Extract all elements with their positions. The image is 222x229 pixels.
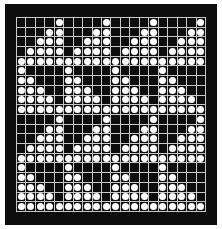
circle-icon bbox=[112, 203, 119, 210]
grid-cell bbox=[121, 163, 130, 173]
grid-cell bbox=[36, 134, 45, 144]
circle-icon bbox=[27, 174, 34, 181]
grid-cell bbox=[64, 144, 73, 154]
grid-cell bbox=[168, 47, 177, 57]
grid-cell bbox=[140, 28, 149, 38]
grid-cell bbox=[93, 86, 102, 96]
grid-cell bbox=[187, 96, 196, 106]
grid-cell bbox=[93, 163, 102, 173]
grid-cell bbox=[111, 96, 120, 106]
grid-cell bbox=[149, 144, 158, 154]
grid-cell bbox=[17, 163, 26, 173]
circle-icon bbox=[46, 38, 53, 45]
grid-cell bbox=[83, 37, 92, 47]
circle-icon bbox=[27, 155, 34, 162]
grid-cell bbox=[93, 76, 102, 86]
circle-icon bbox=[178, 193, 185, 200]
grid-cell bbox=[102, 28, 111, 38]
circle-icon bbox=[197, 203, 204, 210]
grid-cell bbox=[159, 105, 168, 115]
circle-icon bbox=[188, 145, 195, 152]
circle-icon bbox=[197, 145, 204, 152]
grid-cell bbox=[178, 193, 187, 203]
grid-cell bbox=[197, 144, 206, 154]
circle-icon bbox=[112, 106, 119, 113]
grid-cell bbox=[45, 57, 54, 67]
circle-icon bbox=[122, 58, 129, 65]
grid-cell bbox=[36, 202, 45, 212]
grid-cell bbox=[149, 57, 158, 67]
circle-icon bbox=[84, 58, 91, 65]
grid-cell bbox=[64, 154, 73, 164]
grid-cell bbox=[55, 193, 64, 203]
grid-cell bbox=[83, 183, 92, 193]
grid-cell bbox=[83, 76, 92, 86]
grid-cell bbox=[93, 134, 102, 144]
grid-cell bbox=[121, 28, 130, 38]
circle-icon bbox=[56, 19, 63, 26]
grid-cell bbox=[111, 193, 120, 203]
circle-icon bbox=[46, 58, 53, 65]
grid-cell bbox=[36, 173, 45, 183]
grid-cell bbox=[111, 134, 120, 144]
grid-cell bbox=[36, 57, 45, 67]
grid-cell bbox=[83, 134, 92, 144]
circle-icon bbox=[46, 135, 53, 142]
circle-icon bbox=[84, 155, 91, 162]
grid-cell bbox=[178, 115, 187, 125]
grid-cell bbox=[55, 76, 64, 86]
circle-icon bbox=[103, 135, 110, 142]
grid-cell bbox=[187, 105, 196, 115]
grid-cell bbox=[83, 105, 92, 115]
circle-icon bbox=[122, 184, 129, 191]
grid-cell bbox=[187, 134, 196, 144]
grid-cell bbox=[178, 66, 187, 76]
circle-icon bbox=[46, 48, 53, 55]
circle-icon bbox=[93, 145, 100, 152]
grid-cell bbox=[121, 173, 130, 183]
grid-cell bbox=[159, 144, 168, 154]
circle-icon bbox=[46, 96, 53, 103]
grid-cell bbox=[197, 105, 206, 115]
grid-cell bbox=[26, 134, 35, 144]
circle-icon bbox=[46, 193, 53, 200]
circle-icon bbox=[18, 193, 25, 200]
grid-cell bbox=[45, 105, 54, 115]
circle-icon bbox=[112, 174, 119, 181]
circle-icon bbox=[112, 164, 119, 171]
grid-cell bbox=[197, 125, 206, 135]
grid-cell bbox=[178, 154, 187, 164]
grid-cell bbox=[130, 163, 139, 173]
grid-cell bbox=[102, 173, 111, 183]
grid-cell bbox=[74, 47, 83, 57]
grid-cell bbox=[159, 115, 168, 125]
circle-icon bbox=[93, 96, 100, 103]
grid-cell bbox=[93, 144, 102, 154]
grid-cell bbox=[197, 154, 206, 164]
circle-icon bbox=[93, 48, 100, 55]
grid-cell bbox=[197, 173, 206, 183]
grid-cell bbox=[83, 173, 92, 183]
grid-cell bbox=[64, 115, 73, 125]
grid-cell bbox=[178, 125, 187, 135]
grid-cell bbox=[121, 37, 130, 47]
grid-cell bbox=[45, 86, 54, 96]
grid-cell bbox=[102, 66, 111, 76]
grid-cell bbox=[74, 66, 83, 76]
circle-icon bbox=[150, 116, 157, 123]
circle-icon bbox=[84, 87, 91, 94]
grid-cell bbox=[45, 163, 54, 173]
grid-cell bbox=[187, 66, 196, 76]
grid-cell bbox=[149, 76, 158, 86]
circle-icon bbox=[141, 38, 148, 45]
grid-cell bbox=[140, 202, 149, 212]
circle-icon bbox=[103, 106, 110, 113]
grid-cell bbox=[130, 47, 139, 57]
grid-cell bbox=[178, 18, 187, 28]
circle-icon bbox=[27, 58, 34, 65]
grid-cell bbox=[149, 86, 158, 96]
grid-cell bbox=[121, 47, 130, 57]
grid-cell bbox=[55, 66, 64, 76]
grid-cell bbox=[83, 193, 92, 203]
grid-cell bbox=[74, 57, 83, 67]
